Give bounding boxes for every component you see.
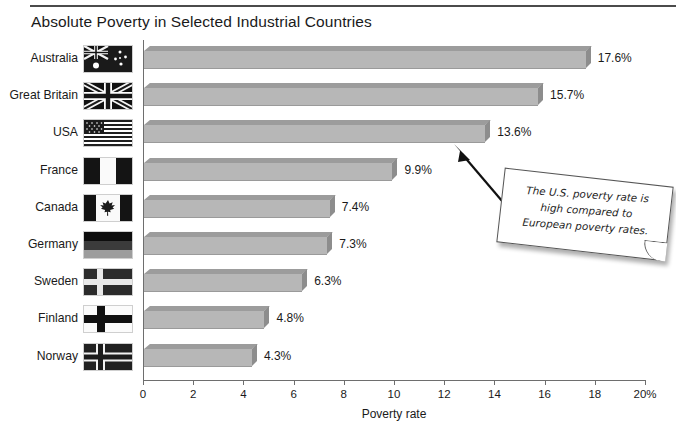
bar-top-face	[144, 269, 308, 274]
chart-page: Absolute Poverty in Selected Industrial …	[0, 0, 676, 429]
bar[interactable]	[144, 344, 252, 366]
bar-value-label: 17.6%	[598, 51, 632, 65]
category-label: Great Britain	[10, 88, 78, 102]
x-axis-tick-label: 8	[341, 388, 347, 400]
category-label: France	[40, 163, 78, 177]
x-axis-tick	[243, 380, 244, 385]
flag-great-britain-icon	[83, 82, 133, 110]
x-axis-tick	[595, 380, 596, 385]
x-axis-tick	[294, 380, 295, 385]
bar-top-face	[144, 232, 333, 237]
bar-value-label: 7.3%	[339, 237, 366, 251]
bar-top-face	[144, 46, 592, 51]
bar-front-face	[144, 125, 485, 143]
x-axis-tick-label: 16	[538, 388, 551, 400]
bar-front-face	[144, 200, 330, 218]
bar[interactable]	[144, 46, 586, 68]
bar-side-face	[327, 232, 332, 254]
x-axis-tick-label: 14	[488, 388, 501, 400]
x-axis-tick-label: 6	[290, 388, 296, 400]
bar-value-label: 9.9%	[404, 163, 431, 177]
bar-front-face	[144, 51, 586, 69]
flag-france-icon	[83, 157, 133, 185]
x-axis-tick-label: 0	[140, 388, 146, 400]
bar-top-face	[144, 344, 258, 349]
bar[interactable]	[144, 158, 392, 180]
x-axis-tick-label: 4	[240, 388, 246, 400]
bar-side-face	[392, 158, 397, 180]
bar-top-face	[144, 195, 336, 200]
bar-value-label: 4.3%	[264, 349, 291, 363]
bar[interactable]	[144, 83, 538, 105]
bar-side-face	[264, 306, 269, 328]
category-label: Australia	[31, 51, 78, 65]
page-title: Absolute Poverty in Selected Industrial …	[31, 13, 372, 31]
category-label: Finland	[38, 311, 78, 325]
bar[interactable]	[144, 232, 327, 254]
x-axis-tick	[545, 380, 546, 385]
bar-front-face	[144, 88, 538, 106]
bar-front-face	[144, 274, 302, 292]
flag-finland-icon	[83, 305, 133, 333]
flag-norway-icon	[83, 343, 133, 371]
bar-value-label: 15.7%	[550, 88, 584, 102]
bar-top-face	[144, 158, 398, 163]
x-axis-tick	[444, 380, 445, 385]
x-axis-tick	[645, 380, 646, 385]
bar-side-face	[252, 344, 257, 366]
bar-side-face	[330, 195, 335, 217]
x-axis-tick-label: 20%	[633, 388, 656, 400]
x-axis-tick	[344, 380, 345, 385]
x-axis-tick-label: 12	[438, 388, 451, 400]
bar-side-face	[302, 269, 307, 291]
bar[interactable]	[144, 195, 330, 217]
category-label: Sweden	[34, 274, 78, 288]
flag-germany-icon	[83, 231, 133, 259]
category-label: Germany	[28, 237, 78, 251]
bar-front-face	[144, 163, 392, 181]
bar-top-face	[144, 120, 491, 125]
bar[interactable]	[144, 269, 302, 291]
bar[interactable]	[144, 306, 264, 328]
bar-side-face	[538, 83, 543, 105]
annotation-text: The U.S. poverty rate is high compared t…	[514, 181, 659, 239]
bar[interactable]	[144, 120, 485, 142]
bar-front-face	[144, 237, 327, 255]
bar-value-label: 4.8%	[276, 311, 303, 325]
bar-top-face	[144, 306, 270, 311]
bar-value-label: 7.4%	[342, 200, 369, 214]
x-axis-tick	[394, 380, 395, 385]
bar-front-face	[144, 349, 252, 367]
bar-top-face	[144, 83, 544, 88]
flag-sweden-icon	[83, 268, 133, 296]
bar-front-face	[144, 311, 264, 329]
flag-usa-icon	[83, 119, 133, 147]
note-fold-corner	[642, 240, 667, 261]
x-axis-tick-label: 10	[388, 388, 401, 400]
bar-value-label: 13.6%	[497, 125, 531, 139]
x-axis-title: Poverty rate	[143, 407, 645, 421]
category-label: Canada	[35, 200, 78, 214]
x-axis-tick	[193, 380, 194, 385]
header-rule	[30, 5, 676, 7]
category-label: USA	[53, 125, 78, 139]
flag-canada-icon	[83, 194, 133, 222]
bar-value-label: 6.3%	[314, 274, 341, 288]
x-axis-tick	[143, 380, 144, 385]
flag-australia-icon	[83, 45, 133, 73]
bar-side-face	[586, 46, 591, 68]
category-label: Norway	[37, 349, 78, 363]
x-axis-tick-label: 2	[190, 388, 196, 400]
x-axis-tick	[494, 380, 495, 385]
x-axis-tick-label: 18	[588, 388, 601, 400]
